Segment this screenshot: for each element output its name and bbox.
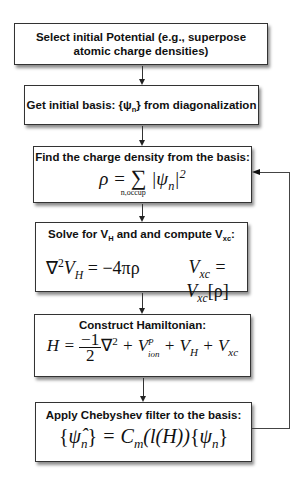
connector-1-2 bbox=[142, 66, 143, 79]
step-charge-density: Find the charge density from the basis: … bbox=[33, 146, 252, 203]
step-solve-potentials: Solve for VH and and compute Vxc: ∇2VH =… bbox=[35, 222, 248, 292]
connector-5-6 bbox=[143, 378, 144, 396]
step-construct-hamiltonian: Construct Hamiltonian: H = −12∇2 + VPion… bbox=[34, 314, 251, 377]
step-initial-basis: Get initial basis: {ψn} from diagonaliza… bbox=[24, 85, 259, 125]
connector-4-5 bbox=[142, 293, 143, 308]
feedback-line-in bbox=[258, 172, 289, 173]
step-select-potential: Select initial Potential (e.g., superpos… bbox=[14, 23, 268, 65]
step-title: Solve for VH and and compute Vxc: bbox=[36, 227, 247, 246]
poisson-equation: ∇2VH = −4πρ bbox=[46, 257, 140, 282]
step-chebyshev-filter: Apply Chebyshev filter to the basis: {ψ̂… bbox=[35, 402, 252, 462]
feedback-line-vertical bbox=[289, 172, 290, 429]
connector-2-3 bbox=[142, 126, 143, 140]
feedback-arrowhead-icon bbox=[252, 169, 260, 175]
xc-potential-equation: Vxc = Vxc[ρ] bbox=[168, 257, 247, 304]
hamiltonian-equation: H = −12∇2 + VPion + VH + Vxc bbox=[35, 332, 250, 363]
step-title: Construct Hamiltonian: bbox=[35, 318, 250, 332]
charge-density-equation: ρ = ∑ n,occup |ψn|2 bbox=[34, 165, 251, 194]
chebyshev-equation: {ψ̂n} = Cm(l(H)){ψn} bbox=[36, 425, 251, 452]
feedback-line-out bbox=[252, 428, 289, 429]
connector-3-4 bbox=[142, 204, 143, 216]
step-title: Select initial Potential (e.g., superpos… bbox=[15, 30, 267, 58]
step-title: Get initial basis: {ψn} from diagonaliza… bbox=[25, 98, 258, 117]
step-title: Find the charge density from the basis: bbox=[34, 150, 251, 164]
step-title: Apply Chebyshev filter to the basis: bbox=[36, 408, 251, 422]
